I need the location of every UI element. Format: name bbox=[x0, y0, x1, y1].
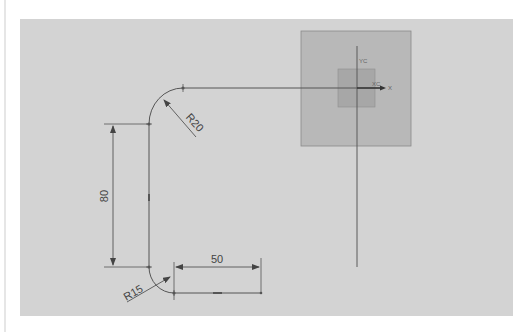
cad-window: YC XC X bbox=[0, 0, 530, 332]
csys-y-label: YC bbox=[359, 58, 368, 64]
dimension-vertical-80[interactable]: 80 bbox=[98, 124, 149, 267]
dimension-radius-r20[interactable]: R20 bbox=[164, 100, 206, 137]
dimension-label-r15[interactable]: R15 bbox=[121, 282, 144, 302]
csys-x-label: XC bbox=[372, 81, 381, 87]
vertical-constraint-icon bbox=[213, 292, 222, 294]
top-fillet-arc[interactable] bbox=[149, 88, 183, 124]
dimension-label-r20[interactable]: R20 bbox=[184, 111, 206, 134]
x-axis-label: X bbox=[388, 85, 392, 91]
constraint-symbols bbox=[148, 194, 222, 294]
dimension-label-80[interactable]: 80 bbox=[98, 190, 110, 202]
sketch-drawing[interactable]: YC XC X bbox=[0, 0, 530, 332]
bottom-fillet-arc[interactable] bbox=[149, 267, 174, 293]
horizontal-constraint-icon bbox=[148, 194, 150, 201]
dimension-label-50[interactable]: 50 bbox=[211, 253, 223, 265]
datum-csys[interactable]: YC XC X bbox=[301, 31, 411, 267]
sketch-points[interactable] bbox=[146, 84, 262, 296]
